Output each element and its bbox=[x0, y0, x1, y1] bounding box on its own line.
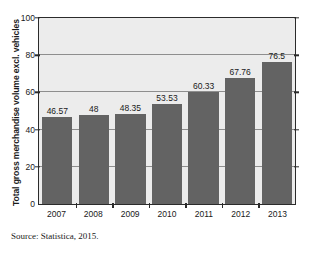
bar bbox=[79, 115, 109, 204]
x-axis-tick-label: 2013 bbox=[268, 209, 287, 219]
y-axis-tick-label: 40 bbox=[26, 125, 35, 135]
bar-series: 46.574848.3553.5360.3367.7676.5 bbox=[39, 18, 295, 204]
clipped-caption-sliver bbox=[14, 0, 300, 7]
y-axis-tick-label: 20 bbox=[26, 162, 35, 172]
bar-group: 48.35 bbox=[112, 18, 149, 204]
bar bbox=[225, 78, 255, 204]
bar-group: 53.53 bbox=[149, 18, 186, 204]
bar-value-label: 53.53 bbox=[149, 93, 186, 103]
y-axis-tick-label: 60 bbox=[26, 87, 35, 97]
bar bbox=[42, 117, 72, 204]
bar-group: 46.57 bbox=[39, 18, 76, 204]
y-axis-tick-label: 0 bbox=[30, 199, 35, 209]
bar-value-label: 67.76 bbox=[222, 67, 259, 77]
bar-group: 76.5 bbox=[258, 18, 295, 204]
bar-group: 60.33 bbox=[185, 18, 222, 204]
bar-value-label: 48.35 bbox=[112, 103, 149, 113]
bar bbox=[188, 92, 218, 204]
x-axis-tick-label: 2012 bbox=[231, 209, 250, 219]
bar-value-label: 76.5 bbox=[258, 51, 295, 61]
bar-group: 67.76 bbox=[222, 18, 259, 204]
x-axis-tick-label: 2007 bbox=[47, 209, 66, 219]
bar-group: 48 bbox=[76, 18, 113, 204]
y-axis-title: Total gross merchandise volume excl. veh… bbox=[11, 20, 21, 206]
y-axis-tick-label: 100 bbox=[21, 13, 35, 23]
x-axis-tick-mark bbox=[185, 203, 186, 208]
x-axis-tick-mark bbox=[112, 203, 113, 208]
x-axis-tick-label: 2008 bbox=[84, 209, 103, 219]
plot-area: 020406080100 46.574848.3553.5360.3367.76… bbox=[38, 17, 296, 205]
bar-value-label: 60.33 bbox=[185, 81, 222, 91]
y-axis-tick-label: 80 bbox=[26, 50, 35, 60]
chart-figure: Total gross merchandise volume excl. veh… bbox=[0, 0, 310, 254]
x-axis-tick-label: 2011 bbox=[195, 209, 213, 219]
x-axis-tick-label: 2009 bbox=[121, 209, 140, 219]
bar bbox=[115, 114, 145, 204]
x-axis-tick-mark bbox=[76, 203, 77, 208]
x-axis-tick-mark bbox=[258, 203, 259, 208]
x-axis-tick-label: 2010 bbox=[158, 209, 177, 219]
bar-value-label: 48 bbox=[76, 104, 113, 114]
source-note: Source: Statistica, 2015. bbox=[11, 231, 99, 241]
bar bbox=[262, 62, 292, 204]
x-axis-tick-mark bbox=[149, 203, 150, 208]
bar bbox=[152, 104, 182, 204]
bar-value-label: 46.57 bbox=[39, 106, 76, 116]
x-axis-tick-mark bbox=[222, 203, 223, 208]
